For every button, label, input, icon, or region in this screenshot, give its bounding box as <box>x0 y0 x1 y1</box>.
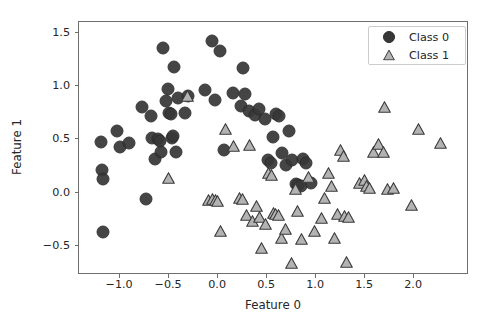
legend-label-class-0: Class 0 <box>409 31 449 44</box>
x-tick-label: 1.0 <box>306 278 324 291</box>
data-point-class-0 <box>272 110 285 123</box>
data-point-class-0 <box>267 131 280 144</box>
y-tick-mark <box>75 245 79 246</box>
x-tick-mark <box>315 274 316 278</box>
x-tick-mark <box>413 274 414 278</box>
y-tick-label: 1.0 <box>52 79 70 92</box>
x-tick-label: 0.0 <box>208 278 226 291</box>
data-point-class-0 <box>236 61 249 74</box>
data-point-class-0 <box>300 156 313 169</box>
data-point-class-0 <box>282 124 295 137</box>
legend-entry-class-0: Class 0 <box>369 28 465 46</box>
data-point-class-0 <box>111 124 124 137</box>
x-tick-mark <box>217 274 218 278</box>
data-point-class-0 <box>168 60 181 73</box>
data-point-class-0 <box>144 110 157 123</box>
x-tick-label: −1.0 <box>106 278 133 291</box>
x-axis-label: Feature 0 <box>245 298 301 312</box>
triangle-marker-icon <box>383 46 395 65</box>
data-point-class-0 <box>167 130 180 143</box>
data-point-class-0 <box>214 44 227 57</box>
y-tick-mark <box>75 32 79 33</box>
data-point-class-0 <box>165 107 178 120</box>
data-point-class-0 <box>155 146 168 159</box>
y-tick-label: 1.5 <box>52 25 70 38</box>
data-point-class-0 <box>169 146 182 159</box>
y-tick-mark <box>75 138 79 139</box>
y-tick-mark <box>75 85 79 86</box>
data-point-class-0 <box>122 136 135 149</box>
data-point-class-0 <box>97 172 110 185</box>
data-point-class-0 <box>178 106 191 119</box>
x-tick-mark <box>364 274 365 278</box>
x-tick-mark <box>119 274 120 278</box>
y-tick-label: 0.0 <box>52 185 70 198</box>
data-point-class-0 <box>94 135 107 148</box>
y-tick-mark <box>75 192 79 193</box>
x-tick-mark <box>266 274 267 278</box>
y-axis-label: Feature 1 <box>10 119 24 175</box>
circle-marker-icon <box>383 31 395 43</box>
x-tick-label: 0.5 <box>257 278 275 291</box>
x-tick-label: 2.0 <box>404 278 422 291</box>
data-point-class-0 <box>157 41 170 54</box>
data-point-class-0 <box>238 87 251 100</box>
legend-entry-class-1: Class 1 <box>369 46 465 64</box>
data-point-class-0 <box>139 193 152 206</box>
scatter-plot-figure: −1.0−0.50.00.51.01.52.0 −0.50.00.51.01.5… <box>0 0 486 322</box>
x-tick-label: 1.5 <box>355 278 373 291</box>
legend: Class 0 Class 1 <box>368 26 466 65</box>
x-tick-label: −0.5 <box>155 278 182 291</box>
y-tick-label: 0.5 <box>52 132 70 145</box>
y-tick-label: −0.5 <box>43 239 70 252</box>
x-tick-mark <box>168 274 169 278</box>
data-point-class-0 <box>209 93 222 106</box>
legend-label-class-1: Class 1 <box>409 49 449 62</box>
data-point-class-0 <box>97 226 110 239</box>
